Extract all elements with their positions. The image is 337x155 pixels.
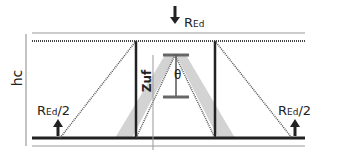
label-main: R xyxy=(184,15,193,30)
label-suffix: /2 xyxy=(298,103,311,118)
label-sub: Ed xyxy=(46,107,57,117)
label-suffix: /2 xyxy=(57,103,70,118)
label-sub: Ed xyxy=(193,19,204,29)
label-sub: Ed xyxy=(287,107,298,117)
arrow-up-icon xyxy=(53,119,63,136)
diagonal-strut-right xyxy=(215,41,292,138)
label-main: R xyxy=(37,103,46,118)
angle-label: θ xyxy=(174,68,181,82)
arrow-down-icon xyxy=(170,6,180,24)
label-main: R xyxy=(278,103,287,118)
reaction-label-right: REd/2 xyxy=(278,103,311,118)
height-label: hc xyxy=(9,70,25,87)
arrow-up-icon xyxy=(290,119,300,136)
reaction-label-left: REd/2 xyxy=(37,103,70,118)
load-label-red: REd xyxy=(184,15,204,30)
diagram-canvas xyxy=(0,0,337,155)
lever-arm-label: Zuf xyxy=(140,70,154,92)
strut-and-tie-diagram: REd REd/2 REd/2 hc Zuf θ xyxy=(0,0,337,155)
